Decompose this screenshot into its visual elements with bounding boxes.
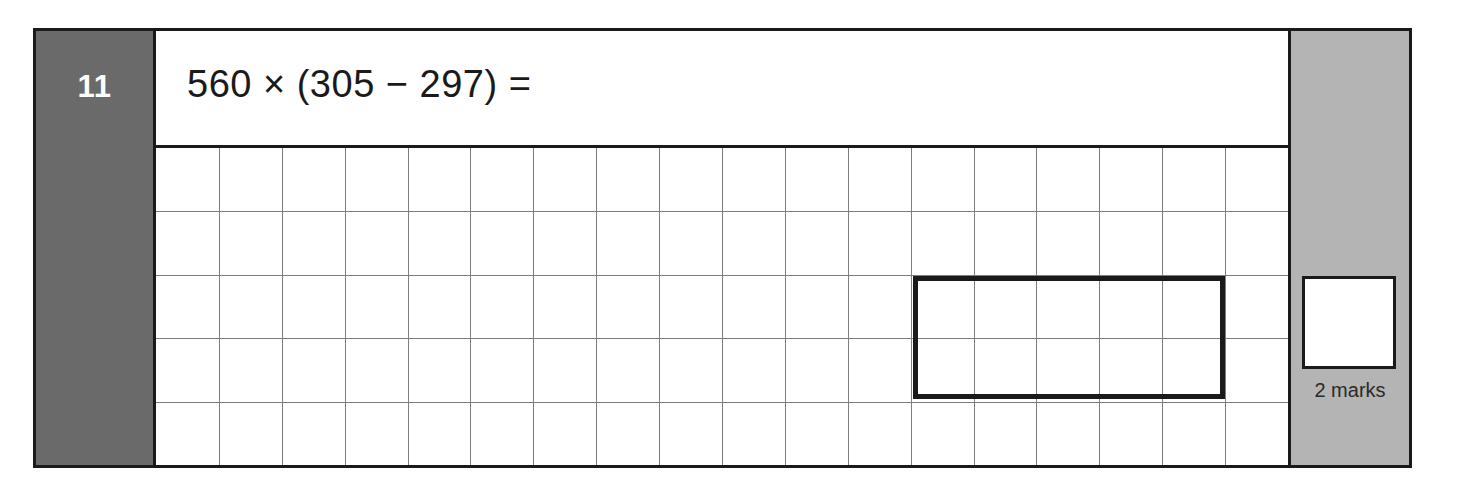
grid-column-line [722,148,723,465]
question-expression: 560 × (305 − 297) = [187,63,531,106]
question-number-column: 11 [36,31,156,465]
question-number: 11 [36,69,153,105]
grid-column-line [219,148,220,465]
grid-column-line [659,148,660,465]
question-frame: 11 560 × (305 − 297) = 2 marks [33,28,1412,468]
grid-column-line [408,148,409,465]
marks-column: 2 marks [1288,31,1409,465]
grid-column-line [470,148,471,465]
grid-column-line [282,148,283,465]
answer-box[interactable] [913,276,1225,399]
grid-row-line [156,211,1288,212]
grid-column-line [1225,148,1226,465]
grid-column-line [848,148,849,465]
grid-column-line [911,148,912,465]
grid-column-line [533,148,534,465]
question-sheet: 11 560 × (305 − 297) = 2 marks [0,0,1464,492]
grid-column-line [345,148,346,465]
grid-column-line [785,148,786,465]
marks-label: 2 marks [1291,379,1409,402]
grid-row-line [156,402,1288,403]
question-text-row: 560 × (305 − 297) = [156,31,1288,148]
working-grid[interactable] [156,148,1288,465]
grid-column-line [596,148,597,465]
marks-score-box[interactable] [1302,276,1396,369]
